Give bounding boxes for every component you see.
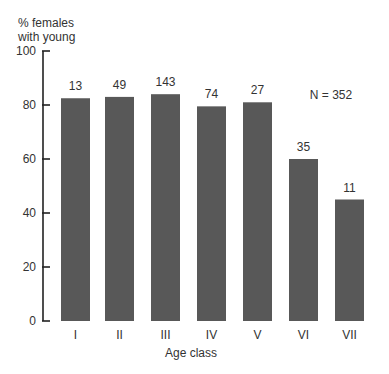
y-axis-ticks: 020406080100 — [16, 44, 50, 328]
x-axis-label: Age class — [165, 346, 217, 360]
x-tick-label: V — [253, 328, 261, 342]
y-tick-label: 80 — [23, 98, 37, 112]
x-tick-label: VII — [342, 328, 357, 342]
bar-count-label: 13 — [69, 79, 83, 93]
bar-count-label: 74 — [205, 87, 219, 101]
bar-I — [61, 98, 90, 321]
bar-VII — [335, 200, 364, 322]
bar-V — [243, 102, 272, 321]
bar-III — [151, 94, 180, 321]
y-tick-label: 0 — [29, 314, 36, 328]
y-axis-label-line-1: % females — [18, 16, 74, 30]
bar-VI — [289, 159, 318, 321]
bar-IV — [197, 106, 226, 321]
x-tick-label: II — [116, 328, 123, 342]
y-tick-label: 100 — [16, 44, 36, 58]
bar-count-label: 35 — [297, 140, 311, 154]
y-tick-label: 40 — [23, 206, 37, 220]
y-axis-label-line-2: with young — [17, 30, 75, 44]
y-axis: 020406080100 — [16, 44, 50, 328]
bar-chart: % females with young 020406080100 134914… — [0, 0, 389, 374]
x-tick-label: I — [74, 328, 77, 342]
y-axis-label: % females with young — [17, 16, 75, 44]
x-tick-label: VI — [298, 328, 309, 342]
bar-II — [105, 97, 134, 321]
bar-count-label: 11 — [343, 181, 356, 195]
sample-size-annotation: N = 352 — [310, 88, 353, 102]
bar-count-label: 27 — [251, 83, 265, 97]
bar-count-label: 143 — [155, 75, 175, 89]
x-axis-tick-labels: IIIIIIIVVVIVII — [74, 328, 357, 342]
x-tick-label: IV — [206, 328, 217, 342]
bar-count-label: 49 — [113, 78, 127, 92]
x-tick-label: III — [160, 328, 170, 342]
y-tick-label: 20 — [23, 260, 37, 274]
y-tick-label: 60 — [23, 152, 37, 166]
bars: 134914374273511 — [61, 75, 364, 321]
